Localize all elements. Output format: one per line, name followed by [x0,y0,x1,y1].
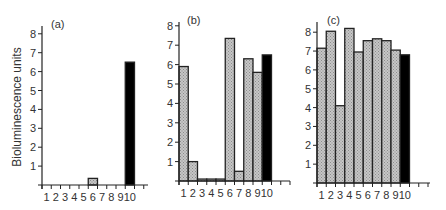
y-tick-label: 7 [167,39,173,51]
bar-10 [125,62,134,185]
panel-c: 1234567891012345678(c) [305,14,430,201]
x-tick-label: 4 [346,189,352,201]
bioluminescence-figure: Bioluminescence units 123456789101234567… [0,0,446,210]
y-tick-label: 2 [30,141,36,153]
bar-6 [88,178,97,185]
x-tick-label: 1 [181,187,187,199]
x-tick-label: 8 [245,187,251,199]
y-tick-label: 6 [305,64,311,76]
bar-2 [326,31,335,183]
bar-1 [179,67,188,181]
bar-9 [391,50,400,183]
x-tick-label: 10 [399,189,411,201]
x-tick-label: 5 [356,189,362,201]
x-tick-label: 7 [374,189,380,201]
bar-5 [354,52,363,183]
x-tick-label: 3 [199,187,205,199]
y-tick-label: 1 [167,156,173,168]
bar-6 [363,41,372,183]
y-tick-label: 7 [305,45,311,57]
y-tick-label: 2 [167,136,173,148]
panel-a: 1234567891012345678(a) [30,18,148,203]
bar-3 [336,106,345,183]
y-tick-label: 2 [305,139,311,151]
y-tick-label: 6 [30,66,36,78]
x-tick-label: 6 [90,191,96,203]
bar-7 [373,39,382,183]
bar-1 [317,48,326,183]
panel-label: (a) [51,18,64,30]
x-tick-label: 4 [208,187,214,199]
y-tick-label: 4 [305,102,311,114]
x-tick-label: 2 [190,187,196,199]
bar-6 [225,38,234,181]
y-tick-label: 5 [167,78,173,90]
panel-b: 1234567891012345678(b) [167,14,290,199]
x-tick-label: 1 [44,191,50,203]
x-tick-label: 3 [337,189,343,201]
x-tick-label: 3 [62,191,68,203]
y-tick-label: 8 [167,20,173,32]
bar-2 [188,162,197,181]
x-tick-label: 7 [99,191,105,203]
x-tick-label: 5 [218,187,224,199]
y-tick-label: 7 [30,47,36,59]
x-tick-label: 2 [53,191,59,203]
x-tick-label: 4 [71,191,77,203]
panel-label: (c) [327,14,340,26]
y-tick-label: 4 [30,103,36,115]
x-tick-label: 8 [108,191,114,203]
y-tick-label: 1 [30,160,36,172]
y-tick-label: 5 [30,85,36,97]
x-tick-label: 5 [81,191,87,203]
y-tick-label: 3 [167,117,173,129]
x-tick-label: 10 [261,187,273,199]
x-tick-label: 8 [383,189,389,201]
x-tick-label: 7 [236,187,242,199]
y-tick-label: 5 [305,83,311,95]
bar-8 [382,41,391,183]
y-tick-label: 8 [305,26,311,38]
y-tick-label: 4 [167,97,173,109]
x-tick-label: 6 [365,189,371,201]
y-tick-label: 6 [167,59,173,71]
y-tick-label: 1 [305,158,311,170]
bar-8 [244,59,253,181]
bar-chart-panels: Bioluminescence units 123456789101234567… [0,0,446,210]
bar-4 [345,28,354,183]
panel-label: (b) [187,14,200,26]
bar-7 [235,171,244,181]
x-tick-label: 2 [328,189,334,201]
x-tick-label: 10 [124,191,136,203]
y-tick-label: 3 [30,122,36,134]
y-tick-label: 3 [305,120,311,132]
x-tick-label: 6 [227,187,233,199]
bar-10 [262,55,271,181]
x-tick-label: 1 [319,189,325,201]
y-tick-label: 8 [30,28,36,40]
y-axis-title: Bioluminescence units [10,47,24,166]
bar-10 [400,55,409,183]
bar-9 [253,72,262,181]
